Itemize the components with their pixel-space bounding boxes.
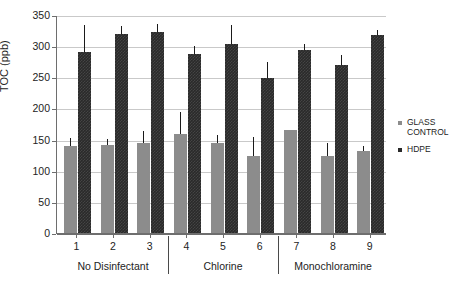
bar-group-6	[247, 16, 274, 233]
legend-label-0-line2: CONTROL	[407, 128, 449, 138]
bar-group-7	[284, 16, 311, 233]
legend-entry-1[interactable]: HDPE	[398, 145, 449, 155]
group-label-2: Monochloramine	[253, 260, 413, 272]
chart-legend: GLASSCONTROLHDPE	[398, 118, 449, 163]
glass-swatch	[398, 121, 402, 125]
error-bar-glass-5	[217, 135, 218, 142]
y-axis-title: TOC (ppb)	[0, 40, 10, 92]
bar-hdpe-7	[298, 50, 311, 233]
x-tick-label-3: 3	[138, 240, 162, 252]
x-tick-mark-3	[150, 234, 151, 238]
x-tick-label-7: 7	[284, 240, 308, 252]
error-bar-glass-1	[70, 138, 71, 146]
x-tick-label-4: 4	[174, 240, 198, 252]
bar-glass-9	[357, 151, 370, 233]
x-tick-mark-2	[113, 234, 114, 238]
group-separator-2	[278, 236, 279, 274]
y-tick-label-50: 50	[16, 197, 50, 208]
x-axis: 123456789No DisinfectantChlorineMonochlo…	[56, 234, 386, 294]
bar-group-4	[174, 16, 201, 233]
x-tick-mark-8	[333, 234, 334, 238]
error-bar-hdpe-3	[157, 24, 158, 32]
bar-chart: TOC (ppb) 050100150200250300350 12345678…	[0, 0, 454, 304]
bars-layer	[57, 16, 386, 233]
error-bar-glass-8	[327, 143, 328, 156]
x-tick-label-2: 2	[101, 240, 125, 252]
bar-glass-4	[174, 134, 187, 233]
bar-group-9	[357, 16, 384, 233]
y-tick-label-200: 200	[16, 103, 50, 114]
bar-hdpe-6	[261, 78, 274, 233]
bar-group-5	[211, 16, 238, 233]
y-tick-label-300: 300	[16, 41, 50, 52]
error-bar-hdpe-5	[231, 25, 232, 44]
bar-hdpe-3	[151, 32, 164, 233]
bar-hdpe-9	[371, 35, 384, 233]
bar-glass-8	[321, 156, 334, 233]
error-bar-glass-6	[253, 137, 254, 156]
group-separator-1	[168, 236, 169, 274]
x-tick-mark-6	[260, 234, 261, 238]
x-tick-label-9: 9	[358, 240, 382, 252]
error-bar-hdpe-9	[377, 30, 378, 35]
x-tick-label-5: 5	[211, 240, 235, 252]
error-bar-glass-4	[180, 112, 181, 134]
bar-hdpe-8	[335, 65, 348, 233]
error-bar-hdpe-6	[267, 62, 268, 78]
x-tick-mark-7	[296, 234, 297, 238]
bar-hdpe-2	[115, 34, 128, 233]
legend-entry-0[interactable]: GLASSCONTROL	[398, 118, 449, 137]
error-bar-hdpe-8	[341, 55, 342, 66]
bar-group-3	[137, 16, 164, 233]
bar-group-1	[64, 16, 91, 233]
x-tick-mark-9	[370, 234, 371, 238]
bar-glass-7	[284, 130, 297, 233]
hdpe-swatch	[398, 148, 402, 152]
error-bar-hdpe-4	[194, 46, 195, 54]
x-tick-mark-1	[76, 234, 77, 238]
bar-hdpe-5	[225, 44, 238, 233]
bar-group-8	[321, 16, 348, 233]
x-tick-mark-4	[186, 234, 187, 238]
bar-hdpe-4	[188, 54, 201, 233]
error-bar-hdpe-7	[304, 44, 305, 50]
bar-glass-3	[137, 143, 150, 233]
bar-hdpe-1	[78, 52, 91, 233]
error-bar-hdpe-1	[84, 25, 85, 52]
y-tick-label-100: 100	[16, 166, 50, 177]
x-tick-label-6: 6	[248, 240, 272, 252]
bar-glass-6	[247, 156, 260, 233]
y-tick-label-350: 350	[16, 10, 50, 21]
bar-group-2	[101, 16, 128, 233]
error-bar-glass-9	[363, 146, 364, 152]
x-tick-label-8: 8	[321, 240, 345, 252]
bar-glass-1	[64, 146, 77, 233]
bar-glass-2	[101, 145, 114, 233]
error-bar-glass-3	[143, 131, 144, 143]
x-tick-mark-5	[223, 234, 224, 238]
legend-label-1-line1: HDPE	[407, 145, 449, 155]
y-tick-label-0: 0	[16, 228, 50, 239]
bar-glass-5	[211, 143, 224, 233]
plot-area	[56, 16, 386, 234]
y-tick-label-150: 150	[16, 135, 50, 146]
error-bar-hdpe-2	[121, 26, 122, 34]
error-bar-glass-2	[107, 139, 108, 145]
x-tick-label-1: 1	[64, 240, 88, 252]
y-tick-label-250: 250	[16, 72, 50, 83]
